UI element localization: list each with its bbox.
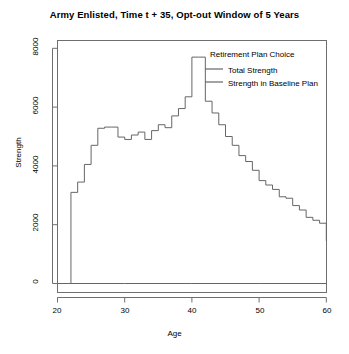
x-tick-label-20: 20 bbox=[42, 306, 72, 315]
chart-title: Army Enlisted, Time t + 35, Opt-out Wind… bbox=[0, 9, 349, 20]
series-line-total-strength bbox=[58, 57, 327, 283]
data-series-layer bbox=[58, 57, 327, 283]
y-tick-label-8000: 8000 bbox=[31, 30, 40, 64]
legend-label-baseline-plan: Strength in Baseline Plan bbox=[228, 79, 318, 88]
legend-swatches bbox=[205, 69, 223, 82]
x-axis-ticks bbox=[58, 298, 327, 303]
x-tick-label-40: 40 bbox=[177, 306, 207, 315]
plot-area bbox=[0, 0, 349, 354]
legend-label-total-strength: Total Strength bbox=[228, 66, 277, 75]
y-tick-label-2000: 2000 bbox=[31, 206, 40, 240]
y-axis-label: Strength bbox=[14, 113, 23, 193]
y-axis-ticks bbox=[53, 48, 58, 283]
y-tick-label-4000: 4000 bbox=[31, 148, 40, 182]
y-tick-label-6000: 6000 bbox=[31, 89, 40, 123]
x-axis-label: Age bbox=[0, 329, 349, 338]
y-tick-label-0: 0 bbox=[31, 265, 40, 299]
x-tick-label-50: 50 bbox=[245, 306, 275, 315]
x-tick-label-60: 60 bbox=[312, 306, 342, 315]
legend-title: Retirement Plan Choice bbox=[210, 50, 294, 59]
chart-figure: Army Enlisted, Time t + 35, Opt-out Wind… bbox=[0, 0, 349, 354]
x-tick-label-30: 30 bbox=[110, 306, 140, 315]
